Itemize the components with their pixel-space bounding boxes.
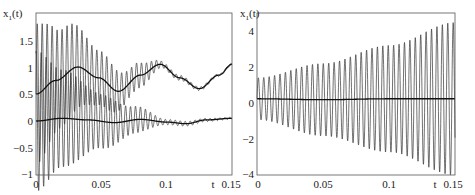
smooth-solution-line: [257, 99, 455, 100]
svg-text:0.15: 0.15: [443, 178, 463, 190]
right-x-ticks: 0 0.05 0.1 0.15 t: [255, 178, 463, 190]
left-plot-curves: [36, 24, 232, 191]
svg-text:0: 0: [33, 178, 39, 190]
svg-text:0.1: 0.1: [382, 178, 396, 190]
right-plot: x1(t) 4 2 0 −2 −4 0 0.05 0.1 0.15 t: [240, 7, 463, 190]
svg-text:−1: −1: [21, 168, 33, 180]
left-y-ticks: 1.5 1 0.5 0 −0.5 −1: [13, 35, 33, 180]
svg-text:0.15: 0.15: [221, 178, 241, 190]
svg-text:2: 2: [249, 61, 255, 73]
svg-text:4: 4: [249, 25, 255, 37]
right-x-axis-label: t: [433, 178, 436, 190]
left-x-ticks: 0 0.05 0.1 0.15 t: [33, 178, 241, 190]
svg-text:0: 0: [28, 115, 34, 127]
svg-text:−0.5: −0.5: [13, 142, 33, 154]
right-y-ticks: 4 2 0 −2 −4: [242, 25, 254, 180]
left-plot: x1(t) 1.5 1 0.5 0 −0.5 −1 0 0.05 0.1 0.1…: [3, 7, 241, 191]
svg-text:0: 0: [249, 97, 255, 109]
svg-text:0.1: 0.1: [159, 178, 173, 190]
svg-text:0: 0: [255, 178, 261, 190]
left-x-axis-label: t: [211, 178, 214, 190]
figure: x1(t) 1.5 1 0.5 0 −0.5 −1 0 0.05 0.1 0.1…: [0, 0, 475, 195]
svg-text:0.05: 0.05: [91, 178, 111, 190]
svg-text:1.5: 1.5: [19, 35, 33, 47]
svg-text:−4: −4: [242, 168, 254, 180]
svg-text:0.05: 0.05: [313, 178, 333, 190]
svg-text:0.5: 0.5: [19, 88, 33, 100]
left-y-axis-label: x1(t): [3, 7, 23, 22]
svg-text:1: 1: [28, 62, 34, 74]
svg-text:−2: −2: [242, 133, 254, 145]
right-plot-curves: [257, 23, 455, 175]
